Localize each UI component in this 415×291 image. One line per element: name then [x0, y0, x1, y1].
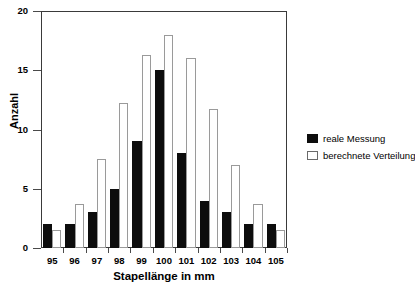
x-tick-label: 101 [174, 256, 198, 266]
x-tick-mark [242, 248, 243, 253]
bars-layer [42, 12, 286, 248]
x-tick-label: 100 [152, 256, 176, 266]
y-tick-label: 15 [0, 65, 28, 75]
legend-label-reale-messung: reale Messung [323, 134, 385, 144]
bar-berechnete-verteilung [52, 230, 61, 248]
bar-berechnete-verteilung [253, 204, 262, 248]
bar-reale-messung [200, 201, 209, 248]
y-axis-title: Anzahl [8, 66, 20, 156]
bar-berechnete-verteilung [186, 58, 195, 248]
y-tick-mark [33, 248, 41, 249]
y-tick-mark [33, 130, 41, 131]
x-tick-label: 95 [40, 256, 64, 266]
bar-reale-messung [177, 153, 186, 248]
x-tick-mark [86, 248, 87, 253]
bar-reale-messung [110, 189, 119, 248]
y-tick-mark [33, 70, 41, 71]
legend-swatch-filled-icon [307, 134, 318, 143]
y-tick-mark [33, 189, 41, 190]
legend-label-berechnete-verteilung: berechnete Verteilung [323, 151, 415, 161]
bar-reale-messung [267, 224, 276, 248]
x-tick-mark [265, 248, 266, 253]
y-tick-label: 20 [0, 6, 28, 16]
x-tick-label: 105 [264, 256, 288, 266]
bar-reale-messung [132, 141, 141, 248]
bar-berechnete-verteilung [75, 204, 84, 248]
x-tick-mark [175, 248, 176, 253]
x-tick-label: 103 [219, 256, 243, 266]
bar-berechnete-verteilung [164, 35, 173, 248]
bar-reale-messung [244, 224, 253, 248]
x-tick-label: 102 [197, 256, 221, 266]
chart-legend: reale Messung berechnete Verteilung [307, 134, 411, 167]
bar-reale-messung [222, 212, 231, 248]
bar-berechnete-verteilung [119, 103, 128, 248]
x-tick-label: 104 [241, 256, 265, 266]
legend-item-reale-messung: reale Messung [307, 134, 411, 144]
x-tick-label: 99 [130, 256, 154, 266]
y-tick-label: 5 [0, 184, 28, 194]
legend-item-berechnete-verteilung: berechnete Verteilung [307, 151, 411, 161]
x-tick-mark [198, 248, 199, 253]
x-tick-mark [108, 248, 109, 253]
x-tick-label: 96 [63, 256, 87, 266]
bar-reale-messung [88, 212, 97, 248]
x-axis-title: Stapellänge in mm [41, 270, 287, 282]
x-tick-label: 98 [107, 256, 131, 266]
bar-berechnete-verteilung [142, 55, 151, 248]
legend-swatch-outlined-icon [307, 151, 318, 160]
bar-reale-messung [65, 224, 74, 248]
bar-reale-messung [155, 70, 164, 248]
x-tick-mark [153, 248, 154, 253]
chart-figure: Anzahl 05101520 959697989910010110210310… [0, 0, 415, 291]
x-tick-label: 97 [85, 256, 109, 266]
bar-berechnete-verteilung [97, 159, 106, 248]
bar-berechnete-verteilung [231, 165, 240, 248]
y-tick-mark [33, 11, 41, 12]
x-tick-mark [130, 248, 131, 253]
y-tick-label: 0 [0, 243, 28, 253]
x-tick-mark [63, 248, 64, 253]
x-tick-mark [220, 248, 221, 253]
bar-reale-messung [43, 224, 52, 248]
x-tick-mark [287, 248, 288, 253]
bar-berechnete-verteilung [209, 109, 218, 248]
y-tick-label: 10 [0, 125, 28, 135]
bar-berechnete-verteilung [276, 230, 285, 248]
